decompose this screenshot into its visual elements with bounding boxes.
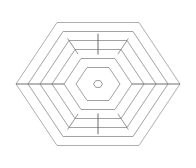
core-group [94, 81, 103, 88]
hexagon-lattice-svg [0, 0, 196, 168]
spoke-group [16, 34, 180, 134]
diagram-canvas [0, 0, 196, 168]
core-hexagon [94, 81, 103, 88]
ring-5 [64, 59, 132, 110]
ring-4 [52, 50, 144, 119]
ring-inner [76, 68, 120, 101]
